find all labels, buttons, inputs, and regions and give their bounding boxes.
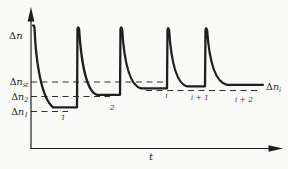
x-axis-label: t — [149, 152, 153, 162]
curve-label-1: 1 — [61, 115, 66, 122]
y-axis-arrow-icon — [28, 7, 35, 22]
subscript: 1 — [24, 111, 28, 119]
plot-area — [0, 0, 288, 169]
y-axis-label: Δn — [9, 31, 23, 41]
n-glyph: n — [16, 30, 22, 41]
subscript: 2 — [24, 96, 28, 104]
curve-label-2: 2 — [110, 105, 115, 112]
delta-glyph: Δ — [11, 91, 18, 102]
delta-glyph: Δ — [266, 81, 273, 92]
curve-label-i: i — [166, 93, 168, 100]
subscript: i — [279, 86, 281, 94]
delta-glyph: Δ — [10, 76, 17, 87]
curve-label-i-plus-2: i + 2 — [235, 97, 253, 104]
level-label-n1: Δn1 — [0, 107, 28, 117]
delta-glyph: Δ — [11, 106, 18, 117]
level-label-st: Δnst — [0, 77, 28, 87]
pulse-train-curve — [33, 25, 263, 107]
subscript: st — [23, 81, 28, 89]
level-label-n2: Δn2 — [0, 92, 28, 102]
level-label-ni: Δni — [266, 82, 281, 92]
figure-canvas: Δn Δnst Δn2 Δn1 Δni t 1 2 i i + 1 i + 2 — [0, 0, 288, 169]
curve-label-i-plus-1: i + 1 — [191, 95, 209, 102]
x-axis-arrow-icon — [269, 145, 284, 152]
